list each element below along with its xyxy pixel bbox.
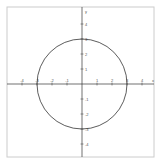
circle-plot: -4-3-2-11234 4321-1-2-3-4 x y — [0, 0, 162, 164]
y-axis-label: y — [85, 9, 87, 14]
x-axis-label: x — [152, 78, 154, 83]
plot-frame — [7, 7, 154, 157]
